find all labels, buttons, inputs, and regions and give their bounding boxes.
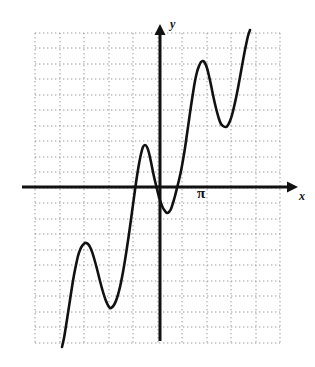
graph-figure: y x π [0,0,315,367]
pi-tick-label: π [197,186,205,201]
x-axis-label: x [299,190,305,202]
x-axis-arrowhead [287,182,298,193]
graph-canvas [0,0,315,367]
axis-lines [22,24,298,341]
y-axis-label: y [170,18,175,30]
y-axis-arrowhead [155,24,166,35]
